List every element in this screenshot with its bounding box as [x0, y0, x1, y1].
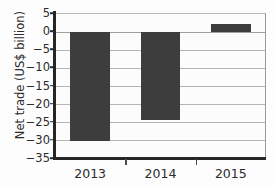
y-tick-label: −30: [2, 133, 50, 147]
y-tick-mark: [50, 103, 55, 105]
y-tick-mark: [50, 48, 55, 50]
y-tick-mark: [50, 67, 55, 69]
y-tick-label: 5: [2, 6, 50, 20]
y-tick-label: −20: [2, 97, 50, 111]
y-axis-tick-labels: 50−5−10−15−20−25−30−35: [0, 0, 50, 186]
x-tick-mark: [125, 159, 126, 165]
y-tick-label: −35: [2, 151, 50, 165]
bar-2013: [70, 32, 110, 141]
y-tick-mark: [50, 12, 55, 14]
bar-2014: [141, 32, 181, 120]
x-tick-label-2014: 2014: [145, 166, 177, 181]
y-tick-mark: [50, 121, 55, 123]
y-tick-mark: [50, 139, 55, 141]
bar-chart-figure: Net trade (US$ billion) 50−5−10−15−20−25…: [0, 0, 276, 186]
y-tick-mark: [50, 30, 55, 32]
y-tick-label: −15: [2, 79, 50, 93]
x-tick-label-2015: 2015: [215, 166, 247, 181]
y-tick-mark: [50, 157, 55, 159]
y-tick-label: −10: [2, 60, 50, 74]
x-axis-line: [53, 157, 266, 160]
x-tick-label-2013: 2013: [74, 166, 106, 181]
y-tick-label: −5: [2, 42, 50, 56]
x-tick-mark: [196, 159, 197, 165]
y-tick-label: −25: [2, 115, 50, 129]
y-tick-mark: [50, 85, 55, 87]
y-tick-label: 0: [2, 24, 50, 38]
bar-2015: [211, 24, 251, 32]
plot-area: [55, 13, 266, 158]
